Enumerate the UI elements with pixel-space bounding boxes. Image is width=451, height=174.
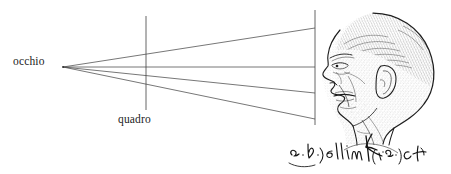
perspective-diagram: occhio quadro — [0, 0, 451, 174]
label-quadro: quadro — [118, 114, 151, 126]
handwritten-inscription — [0, 0, 451, 174]
label-occhio: occhio — [13, 56, 45, 68]
